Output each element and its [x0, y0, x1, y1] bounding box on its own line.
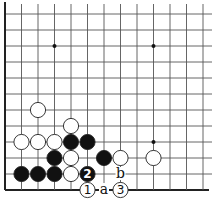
- move-number-label: 1: [84, 183, 92, 197]
- white-stone: [30, 102, 45, 117]
- star-point-icon: [53, 44, 57, 48]
- white-stone: [63, 118, 78, 133]
- black-stone: [47, 166, 62, 181]
- white-stone: 3: [113, 182, 128, 197]
- black-stone: 2: [80, 166, 95, 181]
- white-stone: [63, 150, 78, 165]
- letter-mark-b: b: [116, 165, 125, 181]
- white-stone: [63, 166, 78, 181]
- white-stone: [30, 134, 45, 149]
- white-stone: [14, 134, 29, 149]
- black-stone: [63, 134, 78, 149]
- black-stone: [47, 150, 62, 165]
- black-stone: [96, 150, 111, 165]
- star-point-icon: [152, 140, 156, 144]
- white-stone: 1: [80, 182, 95, 197]
- move-number-label: 2: [83, 167, 91, 181]
- black-stone: [14, 166, 29, 181]
- black-stone: [80, 134, 95, 149]
- black-stone: [30, 166, 45, 181]
- white-stone: [146, 150, 161, 165]
- star-point-icon: [152, 44, 156, 48]
- go-board: 213 ba: [0, 0, 215, 205]
- white-stone: [47, 134, 62, 149]
- move-number-label: 3: [117, 183, 125, 197]
- letter-mark-a: a: [100, 181, 108, 197]
- white-stone: [113, 150, 128, 165]
